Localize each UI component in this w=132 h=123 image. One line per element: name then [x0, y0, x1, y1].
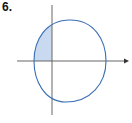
region-diagram	[0, 0, 132, 123]
shaded-region	[34, 24, 52, 61]
x-axis-arrowhead-icon	[124, 59, 129, 64]
